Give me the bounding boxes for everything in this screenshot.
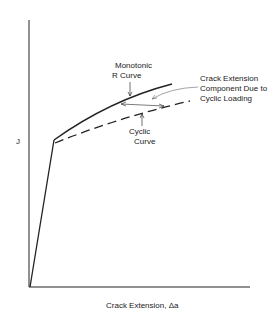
cyclic-label-line1: Cyclic (129, 127, 150, 137)
initial-loading-line (30, 140, 54, 287)
component-leader-arrow (152, 87, 198, 99)
monotonic-label-line2: R Curve (112, 71, 141, 81)
cyclic-curve (55, 101, 190, 143)
monotonic-pointer-arrow (128, 82, 132, 96)
component-label-line2: Component Due to (200, 84, 267, 94)
monotonic-r-curve (54, 84, 172, 140)
cyclic-label-line2: Curve (134, 137, 155, 147)
crack-extension-double-arrow (121, 102, 164, 108)
cyclic-pointer-arrow (140, 114, 144, 126)
chart-canvas (0, 0, 280, 316)
x-axis-label: Crack Extension, Δa (106, 301, 178, 311)
y-axis-label: J (16, 137, 20, 147)
monotonic-label-line1: Monotonic (115, 61, 152, 71)
component-label-line3: Cyclic Loading (200, 94, 252, 104)
component-label-line1: Crack Extension (200, 74, 258, 84)
